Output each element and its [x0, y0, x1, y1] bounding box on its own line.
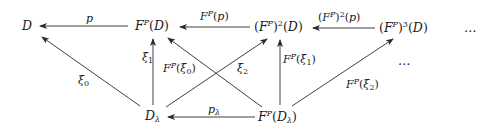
- label-xi2: ξ2: [237, 62, 248, 76]
- label-fp2-p: (FP)2(p): [318, 10, 360, 24]
- label-xi1: ξ1: [142, 51, 153, 65]
- node-d: D: [21, 18, 32, 33]
- label-fp-xi0: FP(ξ0): [162, 61, 196, 76]
- node-fp-d: FP(D): [134, 18, 169, 33]
- commutative-diagram: D FP(D) (FP)2(D) (FP)3(D) … … Dλ FP(Dλ) …: [0, 0, 498, 130]
- label-fp-p: FP(p): [199, 9, 229, 23]
- arrow-xi0: [42, 37, 140, 106]
- label-fp-xi2: FP(ξ2): [345, 77, 379, 92]
- label-fp-xi1: FP(ξ1): [282, 52, 316, 67]
- node-fp3-d: (FP)3(D): [379, 20, 428, 35]
- label-p: p: [86, 12, 93, 25]
- ellipsis-mid: …: [398, 53, 411, 68]
- ellipsis-top: …: [464, 20, 477, 35]
- node-fp2-d: (FP)2(D): [254, 19, 303, 34]
- node-fp-d-lambda: FP(Dλ): [257, 109, 297, 125]
- label-p-lambda: pλ: [208, 103, 220, 117]
- node-d-lambda: Dλ: [144, 108, 160, 124]
- label-xi0: ξ0: [78, 74, 89, 88]
- arrow-fp-xi2: [292, 39, 393, 106]
